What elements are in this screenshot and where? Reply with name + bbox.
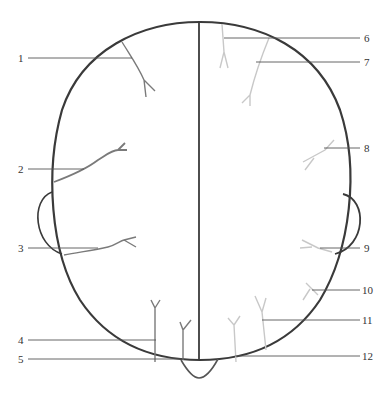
label-5: 5 — [18, 353, 24, 365]
label-12: 12 — [362, 350, 373, 362]
label-1: 1 — [18, 52, 24, 64]
leader-lines — [28, 38, 360, 359]
label-11: 11 — [362, 314, 373, 326]
label-9: 9 — [364, 242, 370, 254]
label-3: 3 — [18, 242, 24, 254]
head-diagram — [0, 0, 390, 420]
label-6: 6 — [364, 32, 370, 44]
label-2: 2 — [18, 163, 24, 175]
right-vessels — [220, 24, 334, 362]
left-vessels — [54, 42, 191, 362]
label-7: 7 — [364, 56, 370, 68]
head-outline — [52, 22, 350, 360]
nose — [181, 359, 218, 378]
label-4: 4 — [18, 334, 24, 346]
label-8: 8 — [364, 142, 370, 154]
label-10: 10 — [362, 284, 373, 296]
